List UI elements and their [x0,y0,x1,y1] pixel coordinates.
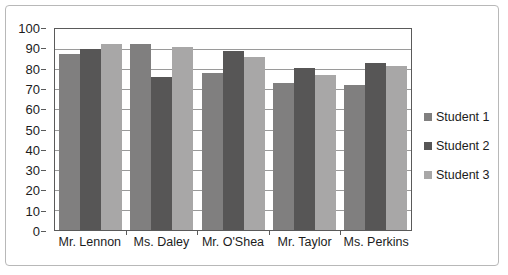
bar-group [340,29,411,230]
x-axis-tick-label: Mr. Lennon [54,235,126,249]
y-axis-tick-mark [41,150,46,151]
bar-group [197,29,268,230]
legend-label: Student 3 [436,168,490,182]
bar [273,83,294,230]
legend-swatch-icon [424,113,432,121]
plot-wrapper [54,28,412,231]
y-axis-tick-label: 90 [26,42,40,55]
bar [344,85,365,230]
y-axis-tick-label: 60 [26,103,40,116]
bar [202,73,223,230]
bar [315,75,336,230]
y-axis-tick-mark [41,69,46,70]
y-axis-tick-label: 0 [33,225,40,238]
y-axis-tick-mark [41,231,46,232]
legend-label: Student 1 [436,110,490,124]
x-axis-tick-label: Mr. Taylor [269,235,341,249]
plot-area [54,28,412,231]
chart-legend: Student 1Student 2Student 3 [424,110,490,182]
bar [80,49,101,230]
y-axis-tick-mark [41,89,46,90]
y-axis-tick-label: 10 [26,204,40,217]
bar [172,47,193,230]
y-axis-tick-label: 80 [26,62,40,75]
bar [130,44,151,230]
bar [244,57,265,230]
y-axis-tick-label: 20 [26,184,40,197]
legend-swatch-icon [424,171,432,179]
bar [365,63,386,230]
bar [101,44,122,230]
y-axis-tick-mark [41,170,46,171]
legend-label: Student 2 [436,139,490,153]
legend-swatch-icon [424,142,432,150]
bar [386,66,407,230]
y-axis-tick-mark [41,211,46,212]
bar-group [55,29,126,230]
bar [294,68,315,230]
bar [151,77,172,230]
x-axis-tick-label: Ms. Perkins [340,235,412,249]
legend-item: Student 3 [424,168,490,182]
x-axis: Mr. LennonMs. DaleyMr. O'SheaMr. TaylorM… [54,235,412,249]
y-axis-tick-label: 70 [26,82,40,95]
y-axis-tick-label: 40 [26,143,40,156]
legend-item: Student 2 [424,139,490,153]
bar [59,54,80,230]
y-axis-tick-mark [41,109,46,110]
y-axis-tick-mark [41,28,46,29]
y-axis-tick-mark [41,130,46,131]
bar [223,51,244,230]
legend-item: Student 1 [424,110,490,124]
bar-group [126,29,197,230]
y-axis-tick-label: 50 [26,123,40,136]
x-axis-tick-label: Mr. O'Shea [197,235,269,249]
bar-group [269,29,340,230]
y-axis-tick-mark [41,48,46,49]
y-axis-tick-label: 100 [18,22,40,35]
chart-frame: 0102030405060708090100 Mr. LennonMs. Dal… [5,5,499,266]
x-axis-tick-label: Ms. Daley [126,235,198,249]
bars-layer [55,29,411,230]
y-axis: 0102030405060708090100 [6,28,46,231]
y-axis-tick-label: 30 [26,164,40,177]
y-axis-tick-mark [41,190,46,191]
